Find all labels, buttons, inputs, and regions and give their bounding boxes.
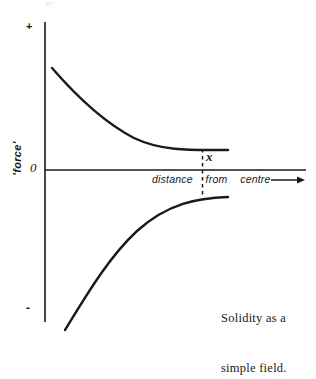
x-axis-label-middle: from xyxy=(206,173,228,185)
x-axis-label-spacer-1 xyxy=(193,173,206,185)
scan-artifact xyxy=(46,2,55,8)
caption-line-2: simple field. xyxy=(221,360,287,377)
y-axis-plus-sign: + xyxy=(26,21,32,32)
curve-positive-force xyxy=(52,68,228,150)
origin-zero-label: 0 xyxy=(30,161,37,174)
curve-negative-force xyxy=(65,197,228,330)
arrow-right-icon xyxy=(271,177,305,184)
x-axis-label-spacer-2 xyxy=(227,173,240,185)
x-axis-label: distance from centre xyxy=(152,174,271,185)
y-axis-label: 'force' xyxy=(12,128,23,190)
x-axis-label-before: distance xyxy=(152,173,193,185)
figure-caption: Solidity as a simple field. xyxy=(221,277,287,379)
y-axis-minus-sign: - xyxy=(26,302,30,314)
x-marker-label: x xyxy=(206,150,213,163)
caption-line-1: Solidity as a xyxy=(221,310,287,327)
x-axis-label-after: centre xyxy=(240,173,270,185)
